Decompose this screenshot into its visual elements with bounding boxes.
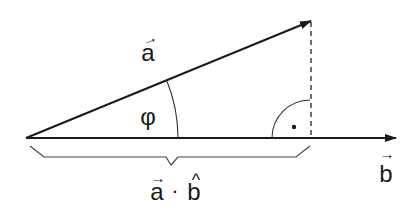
label-vector-a: a → [139,28,159,66]
label-vector-b: b → [379,145,394,187]
arrow-icon: → [380,145,395,162]
right-angle-dot-icon [292,125,296,129]
projection-brace [30,146,310,165]
label-projection-dot: · [171,178,178,203]
arrow-icon: → [151,169,166,186]
hat-icon: ^ [192,170,201,190]
angle-phi-arc [167,80,178,138]
right-angle-arc [272,100,310,138]
label-vector-b-letter: b [379,160,392,187]
vector-a-line [26,21,311,138]
label-projection: a → · b ^ [150,169,200,205]
label-angle-phi: φ [140,103,156,130]
vector-projection-diagram: a → φ b → a → · b ^ [0,0,415,214]
